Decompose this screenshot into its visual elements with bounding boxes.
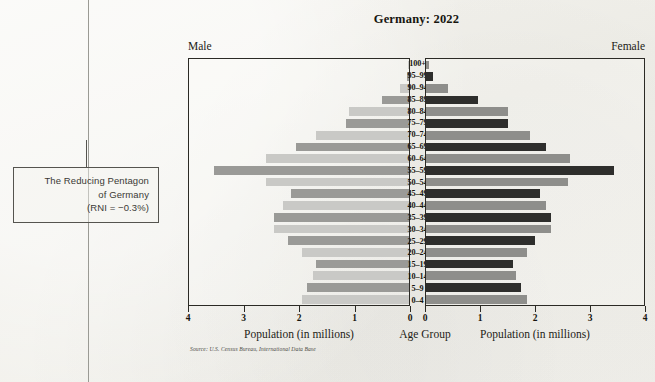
male-bar — [274, 225, 409, 234]
population-pyramid-chart: Germany: 2022 Male Female 100+95–9990–94… — [0, 0, 655, 382]
male-row — [189, 293, 409, 305]
axis-tick — [590, 306, 591, 312]
female-row — [426, 106, 644, 118]
female-bar — [426, 131, 530, 140]
axis-tick-label: 3 — [241, 313, 246, 323]
axis-tick-label: 2 — [297, 313, 302, 323]
male-bar — [302, 295, 409, 304]
female-bar — [426, 107, 508, 116]
female-bar — [426, 201, 546, 210]
male-row — [189, 59, 409, 71]
axis-tick-label: 2 — [533, 313, 538, 323]
axis-tick-label: 4 — [643, 313, 648, 323]
male-row — [189, 270, 409, 282]
male-row — [189, 164, 409, 176]
female-x-axis: 01234 — [425, 306, 645, 328]
male-row — [189, 141, 409, 153]
female-row — [426, 258, 644, 270]
age-group-label: 40–44 — [410, 200, 425, 212]
male-row — [189, 153, 409, 165]
age-group-label: 0–4 — [410, 294, 425, 306]
age-group-label: 60–64 — [410, 153, 425, 165]
female-bar — [426, 189, 540, 198]
axis-tick-label: 0 — [408, 313, 413, 323]
female-row — [426, 141, 644, 153]
female-bar — [426, 96, 478, 105]
age-group-label: 35–39 — [410, 212, 425, 224]
female-bar — [426, 72, 433, 81]
female-row — [426, 247, 644, 259]
female-row — [426, 235, 644, 247]
female-bar — [426, 271, 516, 280]
male-row — [189, 71, 409, 83]
female-row — [426, 94, 644, 106]
female-side-label: Female — [611, 40, 645, 52]
female-row — [426, 71, 644, 83]
male-bar — [214, 166, 409, 175]
age-group-label: 10–14 — [410, 271, 425, 283]
age-group-label: 90–94 — [410, 82, 425, 94]
axis-tick — [355, 306, 356, 312]
age-group-label: 30–34 — [410, 223, 425, 235]
female-row — [426, 82, 644, 94]
female-bar — [426, 61, 429, 70]
female-row — [426, 118, 644, 130]
male-row — [189, 235, 409, 247]
female-row — [426, 188, 644, 200]
male-bar — [266, 154, 409, 163]
male-row — [189, 129, 409, 141]
axis-tick — [480, 306, 481, 312]
male-bar — [274, 213, 409, 222]
female-axis-title: Population (in millions) — [425, 328, 645, 340]
age-group-label: 50–54 — [410, 176, 425, 188]
male-bar — [307, 283, 409, 292]
female-row — [426, 282, 644, 294]
female-bar — [426, 178, 568, 187]
male-bar — [288, 236, 409, 245]
male-row — [189, 223, 409, 235]
male-row — [189, 188, 409, 200]
female-row — [426, 200, 644, 212]
male-bar — [296, 143, 409, 152]
female-bar — [426, 225, 551, 234]
male-plot-panel — [188, 58, 410, 306]
female-bar — [426, 295, 527, 304]
male-bar — [302, 248, 409, 257]
male-row — [189, 176, 409, 188]
male-bar — [316, 131, 410, 140]
female-row — [426, 59, 644, 71]
female-bar — [426, 236, 535, 245]
male-row — [189, 258, 409, 270]
axis-tick — [299, 306, 300, 312]
axis-tick-label: 3 — [588, 313, 593, 323]
female-bar — [426, 143, 546, 152]
axis-tick-label: 1 — [478, 313, 483, 323]
age-group-label: 5–9 — [410, 282, 425, 294]
age-group-label: 95–99 — [410, 70, 425, 82]
female-bar — [426, 154, 570, 163]
age-group-label: 45–49 — [410, 188, 425, 200]
female-bar — [426, 119, 508, 128]
female-bar — [426, 213, 551, 222]
male-bar — [382, 96, 410, 105]
axis-tick-label: 4 — [186, 313, 191, 323]
age-group-label: 55–59 — [410, 164, 425, 176]
axis-tick — [410, 306, 411, 312]
female-row — [426, 129, 644, 141]
female-plot-panel — [425, 58, 645, 306]
age-group-label: 20–24 — [410, 247, 425, 259]
female-bar-rows — [426, 59, 644, 305]
female-row — [426, 176, 644, 188]
male-bar — [349, 107, 410, 116]
age-group-label: 15–19 — [410, 259, 425, 271]
axis-tick-label: 0 — [423, 313, 428, 323]
female-bar — [426, 260, 513, 269]
axis-tick — [535, 306, 536, 312]
female-row — [426, 270, 644, 282]
female-bar — [426, 166, 614, 175]
female-row — [426, 223, 644, 235]
female-row — [426, 164, 644, 176]
female-row — [426, 293, 644, 305]
age-group-label: 100+ — [410, 58, 425, 70]
axis-tick — [244, 306, 245, 312]
